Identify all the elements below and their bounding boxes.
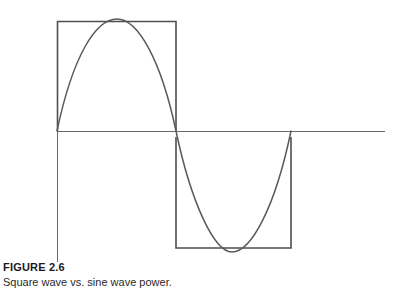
figure-caption-label: FIGURE 2.6 [3,261,303,274]
figure-container: FIGURE 2.6 Square wave vs. sine wave pow… [0,0,407,291]
figure-caption: FIGURE 2.6 Square wave vs. sine wave pow… [3,261,303,289]
square-wave-positive-half [58,22,177,132]
waveform-diagram [0,0,407,291]
figure-caption-text: Square wave vs. sine wave power. [3,275,303,289]
sine-wave-curve [57,19,291,252]
